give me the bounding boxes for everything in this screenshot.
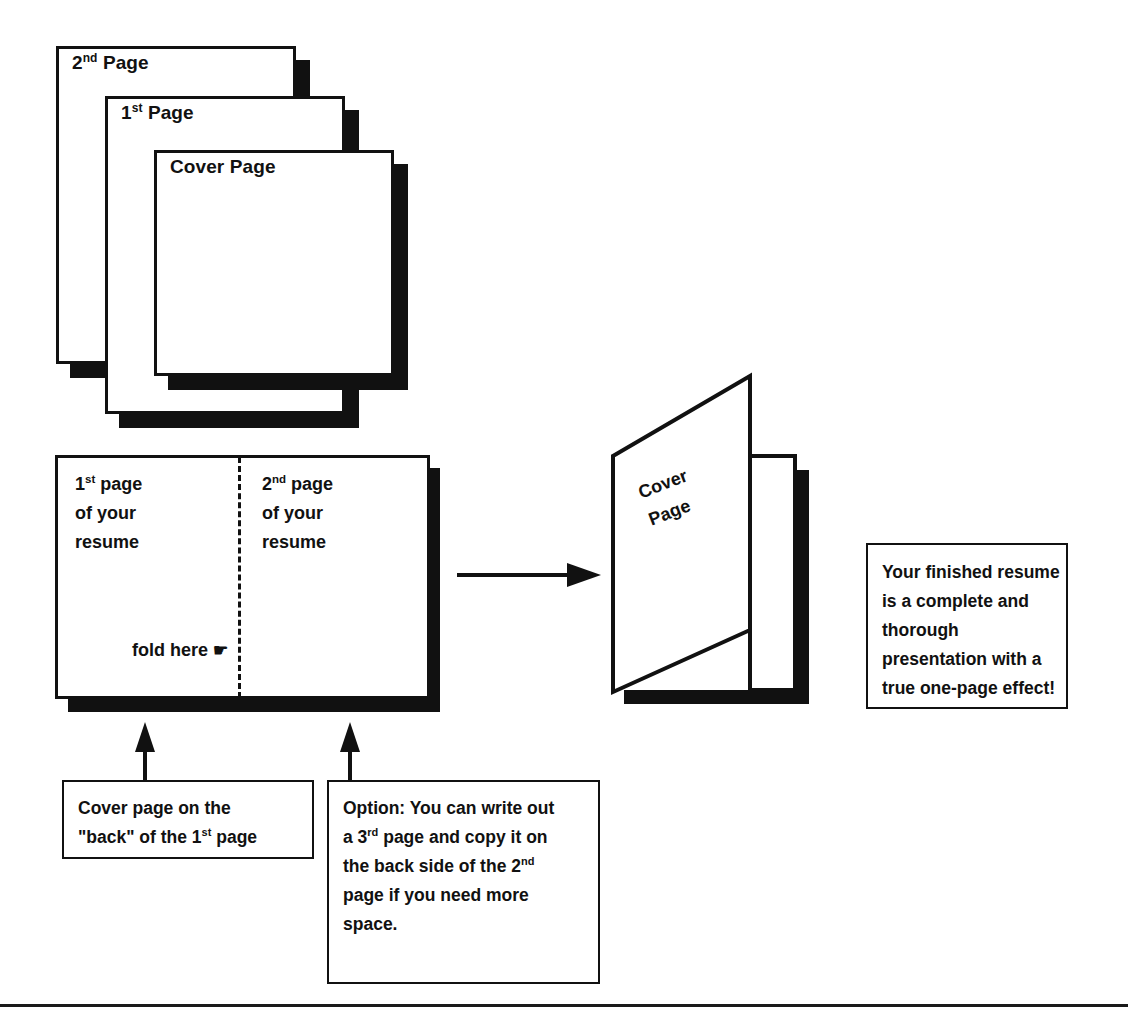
up-arrow-option	[333, 722, 367, 784]
finished-note-line5: true one-page effect!	[882, 674, 1066, 703]
up-arrow-back-cover	[128, 722, 162, 784]
fold-here-text: fold here	[132, 640, 208, 660]
second-page-label: 2nd Page	[72, 52, 149, 74]
booklet-shadow-block	[795, 470, 809, 704]
booklet-shadow-foot	[624, 690, 809, 704]
option-note-line2: a 3rd page and copy it on	[343, 823, 598, 852]
back-cover-note: Cover page on the "back" of the 1st page	[62, 780, 314, 859]
open-resume-left-column: 1st page of your resume	[75, 470, 142, 557]
finished-note-line4: presentation with a	[882, 645, 1066, 674]
folded-booklet-shape	[596, 360, 846, 710]
right-col-line2: of your	[262, 499, 333, 528]
option-note-line3: the back side of the 2nd	[343, 852, 598, 881]
right-col-line3: resume	[262, 528, 333, 557]
right-col-line1: 2nd page	[262, 470, 333, 499]
cover-page-sheet	[154, 150, 394, 376]
diagram-canvas: 2nd Page 1st Page Cover Page 1st page of…	[0, 0, 1128, 1015]
option-note-line4: page if you need more	[343, 881, 598, 910]
bottom-divider	[0, 1004, 1128, 1007]
finished-note-line3: thorough	[882, 616, 1066, 645]
option-note: Option: You can write out a 3rd page and…	[327, 780, 600, 984]
finished-note-line2: is a complete and	[882, 587, 1066, 616]
back-cover-note-line2: "back" of the 1st page	[78, 823, 312, 852]
booklet-front-cover	[613, 376, 750, 692]
finished-note-line1: Your finished resume	[882, 558, 1066, 587]
folded-booklet-group: Cover Page	[596, 360, 846, 710]
option-note-line1: Option: You can write out	[343, 794, 598, 823]
finished-resume-note: Your finished resume is a complete and t…	[866, 543, 1068, 709]
pointing-hand-icon: ☛	[208, 641, 228, 660]
option-note-line5: space.	[343, 910, 598, 939]
back-cover-note-line1: Cover page on the	[78, 794, 312, 823]
fold-line	[238, 457, 241, 698]
left-col-line2: of your	[75, 499, 142, 528]
fold-here-label: fold here☛	[132, 640, 228, 661]
left-col-line3: resume	[75, 528, 142, 557]
right-arrow-to-booklet	[455, 555, 605, 595]
cover-page-label: Cover Page	[170, 156, 276, 178]
first-page-label: 1st Page	[121, 102, 194, 124]
left-col-line1: 1st page	[75, 470, 142, 499]
open-resume-right-column: 2nd page of your resume	[262, 470, 333, 557]
